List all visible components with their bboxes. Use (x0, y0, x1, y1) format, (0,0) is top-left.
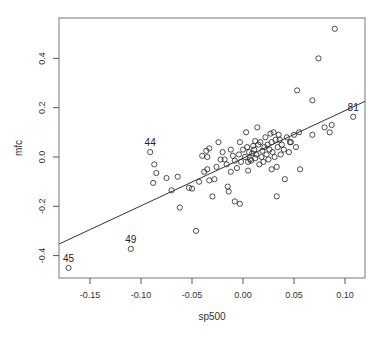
data-point (177, 205, 182, 210)
data-point (255, 125, 260, 130)
data-point (293, 145, 298, 150)
scatter-chart: -0.15-0.10-0.050.000.050.10 -0.4-0.20.00… (0, 0, 385, 338)
data-point (332, 26, 337, 31)
data-point (237, 140, 242, 145)
y-tick-label: 0.2 (37, 101, 47, 114)
data-point (253, 156, 258, 161)
x-tick-label: 0.05 (285, 290, 303, 300)
data-point (207, 178, 212, 183)
data-point (205, 154, 210, 159)
data-point (128, 246, 133, 251)
data-point (154, 170, 159, 175)
data-point (295, 88, 300, 93)
data-point (200, 153, 205, 158)
data-point (274, 164, 279, 169)
data-point (276, 132, 281, 137)
data-point (351, 114, 356, 119)
x-axis-label: sp500 (198, 311, 226, 322)
x-axis: -0.15-0.10-0.050.000.050.10 (80, 278, 354, 300)
data-point (310, 98, 315, 103)
x-tick-label: -0.15 (80, 290, 101, 300)
data-point (66, 265, 71, 270)
data-point (212, 177, 217, 182)
data-point (228, 169, 233, 174)
data-point (264, 152, 269, 157)
data-point (272, 154, 277, 159)
point-annotations: 45494481 (63, 102, 359, 264)
y-tick-label: 0.0 (37, 151, 47, 164)
data-point (175, 174, 180, 179)
data-point (152, 162, 157, 167)
data-point (281, 147, 286, 152)
data-point (279, 142, 284, 147)
data-point (263, 135, 268, 140)
y-tick-label: -0.4 (37, 248, 47, 264)
data-point (216, 140, 221, 145)
y-axis: -0.4-0.20.00.20.4 (37, 52, 59, 263)
data-point (151, 180, 156, 185)
y-tick-label: 0.4 (37, 52, 47, 65)
point-label: 45 (63, 253, 75, 264)
data-point (245, 145, 250, 150)
data-point (225, 184, 230, 189)
data-point (230, 153, 235, 158)
x-tick-label: -0.10 (131, 290, 152, 300)
data-point (237, 201, 242, 206)
data-point (226, 189, 231, 194)
point-label: 49 (125, 234, 137, 245)
data-point (282, 177, 287, 182)
fit-line (59, 101, 365, 244)
data-point (253, 138, 258, 143)
data-point (266, 157, 271, 162)
data-point (327, 130, 332, 135)
data-point (220, 150, 225, 155)
x-tick-label: 0.00 (234, 290, 252, 300)
data-point (322, 125, 327, 130)
data-point (274, 194, 279, 199)
data-point (194, 228, 199, 233)
data-point (214, 164, 219, 169)
y-tick-label: -0.2 (37, 199, 47, 215)
data-point (164, 175, 169, 180)
regression-line (59, 101, 365, 244)
data-point (148, 150, 153, 155)
data-point (228, 147, 233, 152)
x-tick-label: 0.10 (336, 290, 354, 300)
data-point (286, 150, 291, 155)
data-point (298, 167, 303, 172)
data-point (251, 143, 256, 148)
point-label: 44 (145, 137, 157, 148)
x-tick-label: -0.05 (182, 290, 203, 300)
data-points (66, 26, 356, 270)
data-point (210, 194, 215, 199)
data-point (268, 131, 273, 136)
data-point (316, 56, 321, 61)
data-point (189, 186, 194, 191)
data-point (222, 157, 227, 162)
data-point (310, 132, 315, 137)
data-point (244, 130, 249, 135)
data-point (246, 168, 251, 173)
data-point (271, 130, 276, 135)
data-point (278, 152, 283, 157)
point-label: 81 (348, 102, 360, 113)
y-axis-label: mfc (13, 140, 24, 156)
data-point (329, 122, 334, 127)
data-point (269, 167, 274, 172)
data-point (259, 154, 264, 159)
data-point (236, 152, 241, 157)
data-point (232, 199, 237, 204)
data-point (234, 166, 239, 171)
data-point (261, 159, 266, 164)
data-point (247, 150, 252, 155)
